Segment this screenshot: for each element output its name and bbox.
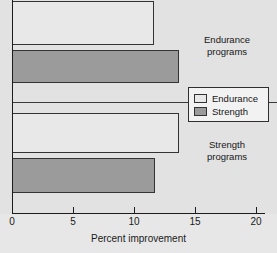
group-label-endurance-programs-line2: programs [183,46,271,58]
group-label-endurance-programs: Endurance programs [183,34,271,58]
x-tick-label-0: 0 [9,216,15,228]
bar-strength-programs-endurance [12,113,179,153]
legend-entry-endurance: Endurance [194,92,264,104]
x-tick-label-10: 10 [128,216,139,228]
bar-strength-programs-strength [12,158,155,193]
bar-endurance-programs-strength [12,50,179,83]
x-axis-line [12,213,265,214]
bar-endurance-programs-endurance [12,1,154,45]
legend-label-strength: Strength [212,106,248,117]
x-tick-15 [195,207,196,214]
y-axis-line [12,0,13,214]
legend-swatch-strength-icon [194,107,207,116]
x-tick-label-5: 5 [70,216,76,228]
group-label-strength-programs-line2: programs [183,151,271,163]
x-tick-5 [73,207,74,214]
x-tick-10 [134,207,135,214]
group-label-strength-programs-line1: Strength [183,139,271,151]
x-tick-label-20: 20 [250,216,261,228]
x-tick-label-15: 15 [189,216,200,228]
x-tick-20 [256,207,257,214]
chart-legend: Endurance Strength [188,87,269,122]
legend-entry-strength: Strength [194,105,264,117]
x-tick-0 [12,207,13,214]
x-axis-title: Percent improvement [0,233,277,245]
group-label-endurance-programs-line1: Endurance [183,34,271,46]
group-label-strength-programs: Strength programs [183,139,271,163]
legend-swatch-endurance-icon [194,94,207,103]
legend-label-endurance: Endurance [212,93,258,104]
bar-chart: 0 5 10 15 20 Percent improvement Enduran… [0,0,277,253]
